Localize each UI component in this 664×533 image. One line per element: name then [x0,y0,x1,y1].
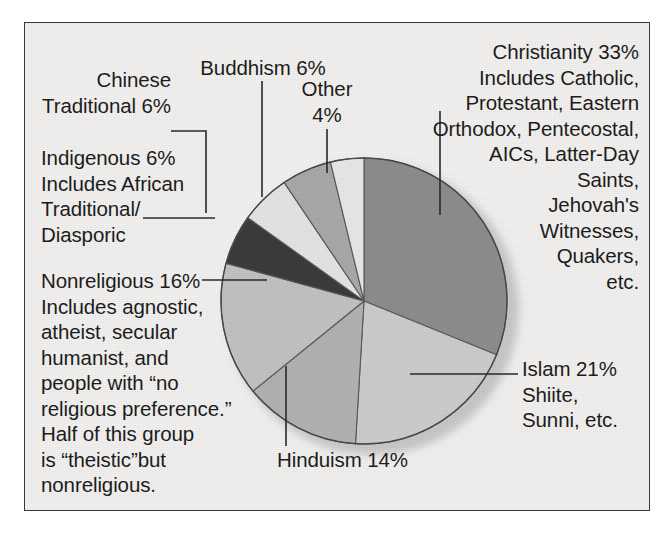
figure-frame: Christianity 33% Includes Catholic, Prot… [24,22,650,511]
label-nonreligious: Nonreligious 16% Includes agnostic, athe… [41,268,251,498]
label-indigenous: Indigenous 6% Includes African Tradition… [41,145,241,247]
label-chinese-traditional: Chinese Traditional 6% [24,67,171,118]
label-other: Other 4% [287,76,367,127]
label-christianity: Christianity 33% Includes Catholic, Prot… [393,39,639,294]
label-hinduism: Hinduism 14% [277,447,467,473]
label-islam: Islam 21% Shiite, Sunni, etc. [522,356,646,433]
